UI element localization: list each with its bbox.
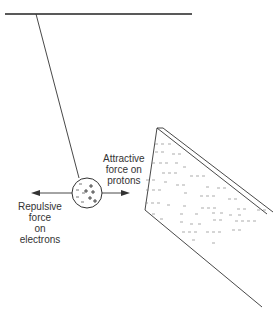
repulsive-force-label: Repulsive force on electrons: [18, 201, 62, 245]
label-line: electrons: [18, 234, 62, 245]
attractive-force-arrow: [102, 190, 130, 196]
label-line: Attractive: [103, 153, 145, 164]
suspension-thread: [36, 14, 79, 178]
label-line: force: [18, 212, 62, 223]
repulsive-force-arrow: [31, 190, 72, 196]
pith-ball: [72, 178, 102, 208]
label-line: protons: [103, 175, 145, 186]
label-line: Repulsive: [18, 201, 62, 212]
charged-rod: [145, 128, 273, 308]
attractive-force-label: Attractive force on protons: [103, 153, 145, 186]
label-line: force on: [103, 164, 145, 175]
label-line: on: [18, 223, 62, 234]
